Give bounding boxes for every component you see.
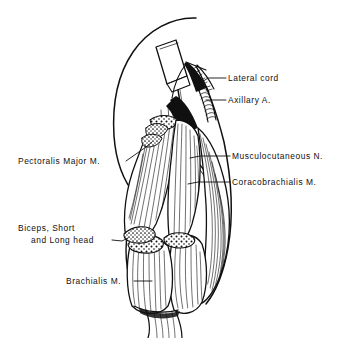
label-biceps-heads: Biceps, Short and Long head [18,222,94,246]
anatomical-figure: Lateral cord Axillary A. Musculocutaneou… [0,0,359,338]
label-axillary-artery: Axillary A. [228,95,271,106]
label-coracobrachialis: Coracobrachialis M. [232,177,316,188]
label-biceps-line-1: Biceps, Short [18,223,75,233]
label-lateral-cord: Lateral cord [228,73,279,84]
label-musculocutaneous-nerve: Musculocutaneous N. [232,151,323,162]
label-brachialis: Brachialis M. [66,276,121,287]
illustration-artwork [0,0,359,338]
label-pectoralis-major: Pectoralis Major M. [18,156,100,167]
label-biceps-line-2: and Long head [18,234,94,246]
